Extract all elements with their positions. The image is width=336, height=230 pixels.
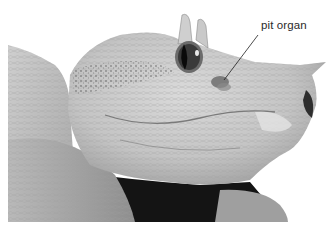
annotated-photo: pit organ <box>0 0 336 230</box>
snake-photo <box>0 0 336 230</box>
pit-organ-label: pit organ <box>261 19 307 31</box>
